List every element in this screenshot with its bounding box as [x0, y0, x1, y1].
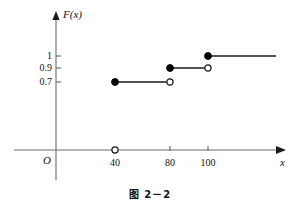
data-point-open-40-0 [112, 147, 118, 153]
y-axis-arrow-icon [52, 11, 59, 20]
figure-container: F(x) x O 1 0.9 0.7 40 80 100 图 2－2 [0, 0, 300, 208]
x-axis-label: x [280, 157, 285, 168]
y-tick-label-0.7: 0.7 [16, 77, 52, 87]
data-point-filled-40-0.7 [112, 79, 119, 86]
y-tick-label-0.9: 0.9 [16, 63, 52, 73]
data-point-open-100-0.9 [205, 65, 211, 71]
step-function-chart [0, 0, 300, 208]
data-point-open-80-0.7 [167, 79, 173, 85]
figure-caption: 图 2－2 [0, 186, 300, 201]
origin-label: O [43, 155, 51, 166]
x-tick-label-40: 40 [101, 158, 129, 168]
data-point-filled-100-1 [205, 53, 212, 60]
data-point-filled-80-0.9 [167, 65, 174, 72]
x-axis-arrow-icon [276, 146, 286, 154]
x-tick-label-80: 80 [156, 158, 184, 168]
y-tick-label-1: 1 [16, 51, 52, 61]
y-axis-label: F(x) [63, 9, 82, 20]
x-tick-label-100: 100 [194, 158, 222, 168]
